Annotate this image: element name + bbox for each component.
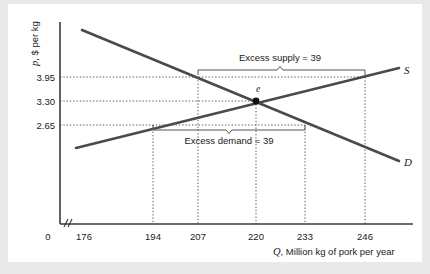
excess-demand-brace — [153, 125, 305, 134]
supply-demand-chart: e S D Excess supply = 39 Excess demand =… — [8, 4, 422, 262]
x-tick-label-207: 207 — [190, 231, 206, 242]
axis-break-mark — [64, 219, 72, 227]
supply-curve-label: S — [404, 64, 410, 76]
x-tick-label-246: 246 — [357, 231, 373, 242]
excess-demand-label: Excess demand = 39 — [185, 135, 274, 146]
x-tick-label-220: 220 — [248, 231, 264, 242]
figure-panel: e S D Excess supply = 39 Excess demand =… — [8, 4, 422, 262]
excess-supply-label: Excess supply = 39 — [239, 52, 321, 63]
x-tick-label-194: 194 — [145, 231, 161, 242]
y-tick-label-265: 2.65 — [37, 120, 56, 131]
x-tick-label-176: 176 — [76, 231, 92, 242]
x-tick-label-233: 233 — [297, 231, 313, 242]
excess-demand-annotation: Excess demand = 39 — [153, 125, 305, 146]
excess-supply-annotation: Excess supply = 39 — [198, 52, 365, 75]
equilibrium-label: e — [256, 84, 260, 94]
excess-supply-brace — [198, 67, 365, 76]
guide-lines-vertical — [153, 77, 365, 224]
y-tick-label-330: 3.30 — [37, 96, 56, 107]
equilibrium-dot — [253, 98, 260, 105]
y-tick-labels: 3.95 3.30 2.65 — [37, 72, 56, 131]
x-tick-label-0: 0 — [45, 231, 50, 242]
x-axis-title-text: , Million kg of pork per year — [281, 246, 395, 257]
x-axis-title: Q, Million kg of pork per year — [273, 246, 395, 257]
y-tick-label-395: 3.95 — [37, 72, 56, 83]
demand-curve-label: D — [403, 156, 412, 168]
y-axis-title-text: , $ per kg — [29, 21, 40, 61]
y-axis-title: p, $ per kg — [29, 21, 40, 67]
x-tick-labels: 0 176 194 207 220 233 246 — [45, 231, 373, 242]
